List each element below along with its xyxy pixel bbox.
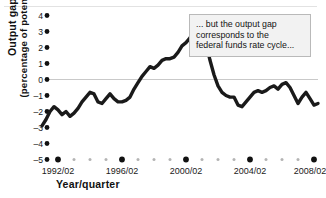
annotation-callout: ... but the output gap corresponds to th… [189, 14, 311, 57]
annotation-line-2: corresponds to the [196, 30, 305, 41]
x-tick-label: 2000/02 [170, 166, 203, 176]
annotation-line-1: ... but the output gap [196, 19, 305, 30]
x-tick-label: 2008/02 [294, 166, 326, 176]
x-tick-label: 1996/02 [106, 166, 139, 176]
x-tick-label: 2004/02 [234, 166, 267, 176]
x-axis-title: Year/quarter [56, 178, 120, 190]
y-axis-tick-dots [45, 13, 50, 162]
x-axis-major-tick-dots [55, 157, 317, 163]
annotation-line-3: federal funds rate cycle... [196, 40, 305, 51]
x-tick-label: 1992/02 [42, 166, 75, 176]
